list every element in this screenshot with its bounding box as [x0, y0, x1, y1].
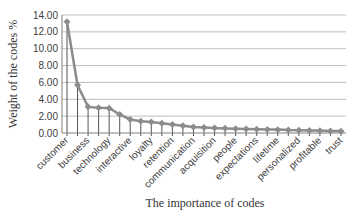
- data-point-marker: [190, 124, 197, 131]
- data-point-marker: [148, 119, 155, 126]
- y-axis-ticks: 0.002.004.006.008.0010.0012.0014.00: [33, 10, 58, 139]
- data-point-marker: [64, 18, 71, 25]
- drop-lines: [67, 22, 341, 136]
- gridlines: [62, 15, 346, 116]
- y-tick-label: 6.00: [39, 77, 59, 88]
- data-point-marker: [169, 121, 176, 128]
- data-point-marker: [243, 125, 250, 132]
- data-point-marker: [264, 126, 271, 133]
- data-point-marker: [137, 118, 144, 125]
- data-point-marker: [338, 128, 345, 135]
- data-point-marker: [179, 122, 186, 129]
- y-tick-label: 4.00: [39, 94, 59, 105]
- data-point-marker: [232, 125, 239, 132]
- data-point-marker: [201, 124, 208, 131]
- y-tick-label: 0.00: [39, 128, 59, 139]
- data-markers: [64, 18, 345, 134]
- y-tick-label: 14.00: [33, 10, 58, 21]
- y-tick-label: 2.00: [39, 111, 59, 122]
- y-tick-label: 12.00: [33, 26, 58, 37]
- data-point-marker: [95, 104, 102, 111]
- data-point-marker: [211, 124, 218, 131]
- data-point-marker: [274, 126, 281, 133]
- x-tick-label: trust: [323, 134, 345, 156]
- line-chart: 0.002.004.006.008.0010.0012.0014.00 cust…: [0, 0, 361, 218]
- data-point-marker: [158, 120, 165, 127]
- data-point-marker: [222, 125, 229, 132]
- y-axis-label: Weight of the codes %: [6, 20, 20, 128]
- x-axis-tick-labels: customerbusinesstechnologyinteractiveloy…: [34, 134, 345, 190]
- data-point-marker: [253, 126, 260, 133]
- y-tick-label: 10.00: [33, 43, 58, 54]
- x-axis-label: The importance of codes: [146, 196, 265, 210]
- y-tick-label: 8.00: [39, 60, 59, 71]
- series-line: [67, 22, 341, 131]
